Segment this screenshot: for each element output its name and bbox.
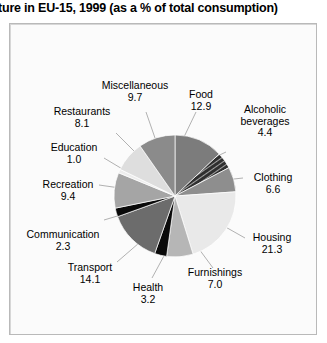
pie-label-misc-value: 9.7 [89, 92, 181, 104]
pie-label-misc-name: Miscellaneous [102, 79, 169, 91]
pie-label-health: Health 3.2 [124, 282, 172, 305]
pie-label-communication: Communication 2.3 [21, 229, 105, 252]
pie-label-restaurants: Restaurants 8.1 [48, 106, 116, 129]
pie-label-education-value: 1.0 [45, 154, 103, 166]
pie-label-alcoholic-name: Alcoholic [244, 103, 286, 115]
pie-label-food: Food 12.9 [178, 89, 224, 112]
pie-label-housing-name: Housing [253, 231, 292, 243]
pie-label-clothing-value: 6.6 [245, 184, 301, 196]
pie-label-transport-value: 14.1 [61, 274, 119, 286]
pie-label-food-value: 12.9 [178, 101, 224, 113]
pie-label-furnishings: Furnishings 7.0 [183, 267, 247, 290]
pie-label-furnishings-name: Furnishings [188, 266, 242, 278]
pie-label-transport: Transport 14.1 [61, 262, 119, 285]
pie-label-housing: Housing 21.3 [246, 232, 298, 255]
pie-label-health-value: 3.2 [124, 294, 172, 306]
pie-label-housing-value: 21.3 [246, 244, 298, 256]
pie-label-furnishings-value: 7.0 [183, 279, 247, 291]
pie-label-clothing: Clothing 6.6 [245, 172, 301, 195]
leader-line-health [152, 254, 165, 278]
pie-label-education: Education 1.0 [45, 142, 103, 165]
leader-line-transport [117, 243, 139, 262]
pie-label-transport-name: Transport [68, 261, 113, 273]
leader-line-restaurants [116, 133, 135, 152]
leader-line-food [184, 112, 196, 137]
pie-label-misc: Miscellaneous 9.7 [89, 80, 181, 103]
pie-label-communication-value: 2.3 [21, 241, 105, 253]
pie-label-restaurants-value: 8.1 [48, 118, 116, 130]
pie-label-restaurants-name: Restaurants [54, 105, 111, 117]
pie-label-recreation-value: 9.4 [36, 191, 100, 203]
pie-label-alcoholic: Alcoholic beverages 4.4 [229, 104, 301, 139]
pie-label-recreation: Recreation 9.4 [36, 179, 100, 202]
pie-label-recreation-name: Recreation [43, 178, 94, 190]
pie-label-health-name: Health [133, 281, 163, 293]
pie-label-communication-name: Communication [27, 228, 100, 240]
leader-line-misc [146, 112, 155, 138]
pie-label-clothing-name: Clothing [254, 171, 293, 183]
pie-label-alcoholic-value: 4.4 [229, 127, 301, 139]
pie-label-education-name: Education [51, 141, 98, 153]
pie-label-food-name: Food [189, 88, 213, 100]
pie-slices [114, 135, 236, 257]
